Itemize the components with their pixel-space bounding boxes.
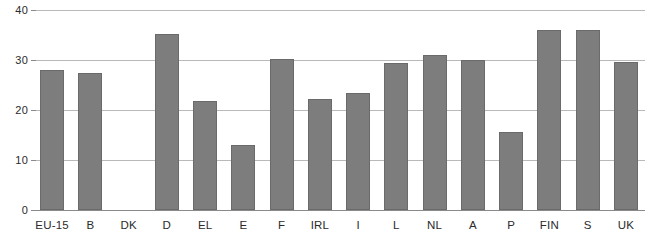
bar-d [155,34,179,210]
bar-fin [537,30,561,210]
bar-l [384,63,408,210]
bar-i [346,93,370,210]
x-axis-tick-labels: EU-15BDKDELEFIRLILNLAPFINSUK [33,218,645,238]
bar-el [193,101,217,210]
x-tick-label-p: P [492,218,530,232]
y-tick-label-40: 40 [0,5,28,16]
bar-s [576,30,600,210]
y-tick-label-30: 30 [0,55,28,66]
y-tick-mark-10 [31,160,36,161]
y-tick-mark-40 [31,10,36,11]
x-tick-label-nl: NL [416,218,454,232]
x-tick-label-e: E [224,218,262,232]
bar-e [231,145,255,210]
x-tick-label-i: I [339,218,377,232]
bar-nl [423,55,447,210]
bar-b [78,73,102,210]
x-tick-label-irl: IRL [301,218,339,232]
x-tick-label-s: S [569,218,607,232]
y-tick-mark-0 [31,210,36,211]
x-tick-label-b: B [71,218,109,232]
bar-f [270,59,294,211]
y-tick-mark-30 [31,60,36,61]
bar-chart: 010203040 EU-15BDKDELEFIRLILNLAPFINSUK [0,0,653,249]
y-tick-label-0: 0 [0,205,28,216]
bar-uk [614,62,638,210]
x-tick-label-dk: DK [110,218,148,232]
plot-area [33,0,645,211]
x-tick-label-a: A [454,218,492,232]
x-tick-label-f: F [263,218,301,232]
bar-a [461,60,485,211]
x-tick-label-eu-15: EU-15 [33,218,71,232]
x-tick-label-fin: FIN [530,218,568,232]
bars-layer [33,0,645,211]
x-tick-label-uk: UK [607,218,645,232]
y-tick-label-20: 20 [0,105,28,116]
y-tick-label-10: 10 [0,155,28,166]
bar-eu-15 [40,70,64,210]
bar-p [499,132,523,210]
x-tick-label-l: L [377,218,415,232]
bar-irl [308,99,332,211]
y-tick-mark-20 [31,110,36,111]
x-tick-label-d: D [148,218,186,232]
x-tick-label-el: EL [186,218,224,232]
